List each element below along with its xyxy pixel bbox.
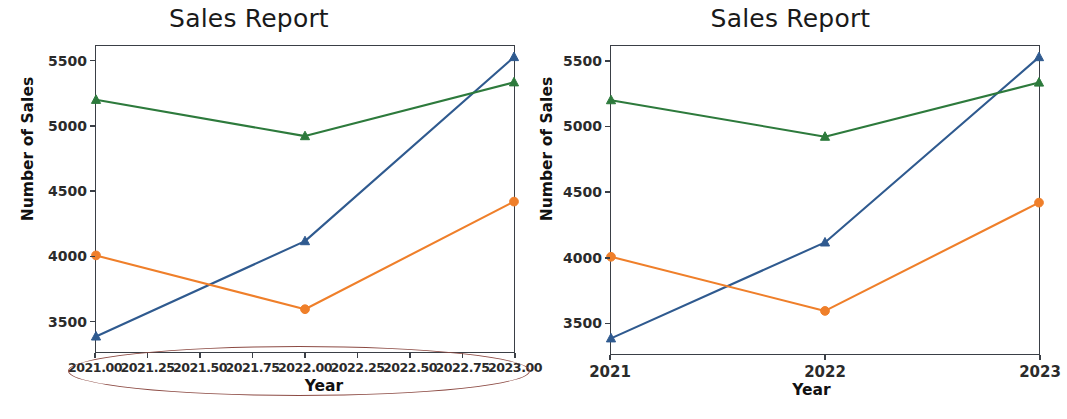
data-point-marker-circle xyxy=(1035,198,1044,207)
x-tick-label: 2022.00 xyxy=(278,360,332,375)
x-tick-mark xyxy=(94,353,96,358)
y-tick-mark xyxy=(605,60,610,62)
x-tick-label: 2023 xyxy=(1019,363,1061,381)
x-tick-mark xyxy=(252,353,254,358)
chart-panel-left: Sales Report Number of Sales 35004000450… xyxy=(0,0,534,419)
data-point-marker-triangle xyxy=(509,77,518,86)
plot-area-right xyxy=(610,45,1040,355)
y-tick-label: 5500 xyxy=(552,53,602,69)
chart-title-right: Sales Report xyxy=(524,4,1057,33)
x-tick-label: 2021 xyxy=(589,363,631,381)
y-tick-mark xyxy=(90,60,95,62)
data-point-marker-circle xyxy=(510,197,519,206)
y-tick-mark xyxy=(90,190,95,192)
x-tick-label: 2022 xyxy=(804,363,846,381)
series-line-2 xyxy=(96,202,514,310)
x-tick-mark xyxy=(824,355,826,360)
x-tick-label: 2022.75 xyxy=(435,360,489,375)
y-axis-label-left: Number of Sales xyxy=(19,74,37,224)
data-point-marker-triangle xyxy=(91,95,100,104)
x-tick-mark xyxy=(1039,355,1041,360)
x-tick-label: 2022.50 xyxy=(383,360,437,375)
x-tick-mark xyxy=(462,353,464,358)
y-tick-mark xyxy=(90,321,95,323)
series-layer-right xyxy=(611,46,1039,354)
data-point-marker-triangle xyxy=(606,95,615,104)
y-tick-label: 3500 xyxy=(37,314,87,330)
x-tick-label: 2022.25 xyxy=(330,360,384,375)
y-tick-label: 4000 xyxy=(37,248,87,264)
chart-title-left: Sales Report xyxy=(0,4,516,33)
plot-area-left xyxy=(95,45,515,353)
x-tick-mark xyxy=(409,353,411,358)
chart-panel-right: Sales Report Number of Sales 35004000450… xyxy=(534,0,1067,419)
x-tick-mark xyxy=(609,355,611,360)
x-axis-label-left: Year xyxy=(57,377,591,395)
y-tick-mark xyxy=(605,257,610,259)
series-layer-left xyxy=(96,46,514,352)
y-tick-mark xyxy=(605,126,610,128)
x-tick-mark xyxy=(199,353,201,358)
y-tick-mark xyxy=(90,125,95,127)
x-tick-mark xyxy=(514,353,516,358)
data-point-marker-circle xyxy=(821,307,830,316)
x-tick-label: 2021.25 xyxy=(120,360,174,375)
y-tick-mark xyxy=(90,256,95,258)
x-tick-label: 2021.75 xyxy=(225,360,279,375)
data-point-marker-triangle xyxy=(1034,78,1043,87)
series-line-3 xyxy=(96,82,514,136)
data-point-marker-triangle xyxy=(1034,52,1043,61)
data-point-marker-triangle xyxy=(509,52,518,61)
y-tick-label: 5000 xyxy=(37,118,87,134)
y-axis-label-right: Number of Sales xyxy=(538,74,556,224)
series-line-3 xyxy=(611,83,1039,137)
x-tick-mark xyxy=(304,353,306,358)
x-tick-mark xyxy=(357,353,359,358)
y-tick-label: 5500 xyxy=(37,53,87,69)
y-tick-label: 3500 xyxy=(552,315,602,331)
data-point-marker-circle xyxy=(301,305,310,314)
y-tick-label: 4500 xyxy=(552,184,602,200)
y-tick-label: 4000 xyxy=(552,250,602,266)
x-axis-label-right: Year xyxy=(545,381,1067,399)
series-line-2 xyxy=(611,203,1039,311)
y-tick-label: 5000 xyxy=(552,118,602,134)
y-tick-label: 4500 xyxy=(37,183,87,199)
y-tick-mark xyxy=(605,323,610,325)
y-tick-mark xyxy=(605,191,610,193)
x-tick-label: 2021.50 xyxy=(173,360,227,375)
x-tick-label: 2021.00 xyxy=(68,360,122,375)
figure-canvas: Sales Report Number of Sales 35004000450… xyxy=(0,0,1067,419)
x-tick-mark xyxy=(147,353,149,358)
